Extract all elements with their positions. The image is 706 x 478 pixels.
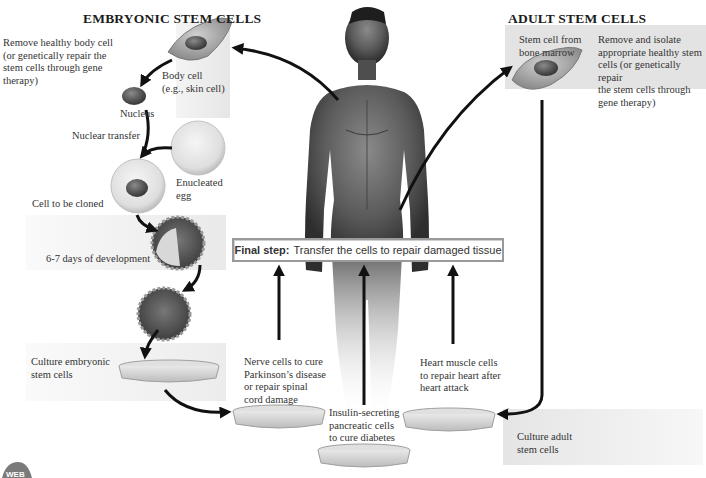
nucleus-icon (122, 87, 146, 105)
svg-text:WEB: WEB (6, 470, 25, 478)
embryonic-heading: EMBRYONIC STEM CELLS (83, 11, 261, 27)
arrow-to-body-cell (235, 48, 338, 100)
stem-cell-source-label: Stem cell from bone marrow (519, 34, 581, 59)
cell-to-be-cloned-label: Cell to be cloned (32, 198, 103, 211)
nuclear-transfer-label: Nuclear transfer (72, 130, 140, 143)
development-label: 6-7 days of development (46, 253, 150, 266)
insulin-cells-dish-icon (318, 444, 410, 467)
nerve-cells-label: Nerve cells to cure Parkinson’s disease … (244, 356, 326, 406)
final-step-box: Final step: Transfer the cells to repair… (232, 238, 504, 262)
heart-cells-label: Heart muscle cells to repair heart after… (420, 357, 501, 395)
arrow-to-blastocyst (137, 215, 155, 230)
embryonic-culture-dish-icon (119, 360, 219, 382)
blastocyst-icon (138, 288, 190, 340)
heart-cells-dish-icon (403, 408, 495, 431)
arrow-to-adult-culture (500, 100, 542, 414)
enucleated-egg-label: Enucleated egg (176, 177, 223, 202)
nucleus-label: Nucleus (120, 108, 154, 121)
culture-embryonic-label: Culture embryonic stem cells (31, 356, 110, 381)
culture-adult-label: Culture adult stem cells (517, 431, 572, 456)
adult-heading: ADULT STEM CELLS (508, 11, 646, 27)
remove-isolate-label: Remove and isolate appropriate healthy s… (598, 34, 706, 109)
enucleated-egg-icon (171, 121, 225, 175)
cloned-cell-icon (111, 159, 165, 213)
final-step-text: Transfer the cells to repair damaged tis… (293, 244, 501, 256)
body-cell-label: Body cell (e.g., skin cell) (162, 70, 225, 95)
nerve-cells-dish-icon (233, 405, 325, 428)
remove-body-cell-label: Remove healthy body cell (or genetically… (3, 37, 113, 87)
web-logo-icon: WEB (2, 462, 32, 478)
insulin-cells-label: Insulin-secreting pancreatic cells to cu… (329, 407, 400, 445)
blastocyst-icon (152, 217, 204, 269)
final-step-label: Final step: (234, 244, 289, 256)
arrow-to-nerve-dish (165, 390, 228, 412)
